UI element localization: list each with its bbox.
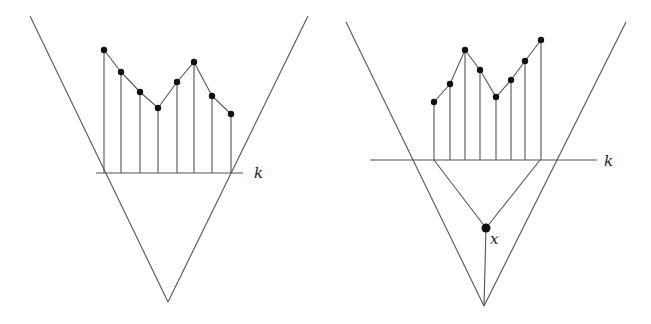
data-point xyxy=(447,81,453,87)
inner-line xyxy=(486,160,540,228)
data-point xyxy=(477,67,483,73)
v-boundary-line xyxy=(168,16,308,302)
right-figure xyxy=(346,22,626,306)
left-figure xyxy=(30,16,308,302)
data-point xyxy=(493,94,499,100)
data-point xyxy=(508,77,514,83)
data-point xyxy=(228,111,234,117)
data-point xyxy=(431,99,437,105)
data-point xyxy=(137,89,143,95)
inner-line xyxy=(434,160,486,228)
inner-line xyxy=(484,228,486,306)
data-point xyxy=(522,58,528,64)
v-boundary-line xyxy=(30,16,168,302)
data-point xyxy=(101,47,107,53)
diagram-canvas: k k x xyxy=(0,0,651,324)
k-label-left: k xyxy=(254,164,263,182)
data-point xyxy=(191,59,197,65)
data-point xyxy=(155,105,161,111)
data-point xyxy=(209,93,215,99)
data-point xyxy=(118,69,124,75)
data-point xyxy=(462,47,468,53)
v-boundary-line xyxy=(346,22,484,306)
data-point xyxy=(538,37,544,43)
k-label-right: k xyxy=(604,152,613,170)
x-node-label: x xyxy=(490,230,499,248)
data-point xyxy=(174,79,180,85)
